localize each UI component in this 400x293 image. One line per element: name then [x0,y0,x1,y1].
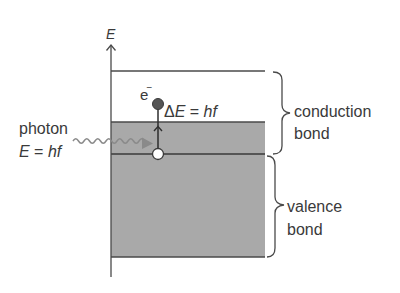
conduction-brace-icon [273,72,290,154]
hole-icon [153,149,164,160]
transition-energy-label: ΔE = hf [164,103,218,120]
valence-band-label-line1: valence [287,198,342,215]
transition-energy-lhs: E [175,103,186,120]
delta-symbol: Δ [164,103,175,120]
photon-energy-label: E = hf [19,143,63,160]
band-diagram: E photon E = hf e − ΔE = hf conduction b… [0,0,400,293]
photon-energy-lhs: E [19,143,30,160]
transition-energy-eq: = [185,103,203,120]
electron-charge: − [147,82,153,93]
transition-energy-rhs: hf [204,103,219,120]
valence-band-label-line2: bond [287,221,323,238]
photon-label: photon [19,120,68,137]
axis-label: E [106,26,116,42]
photon-energy-eq: = [30,143,48,160]
conduction-band-label-line1: conduction [294,103,371,120]
electron-icon [153,99,164,110]
conduction-band-label-line2: bond [294,125,330,142]
photon-energy-rhs: hf [48,143,63,160]
valence-brace-icon [267,156,284,257]
